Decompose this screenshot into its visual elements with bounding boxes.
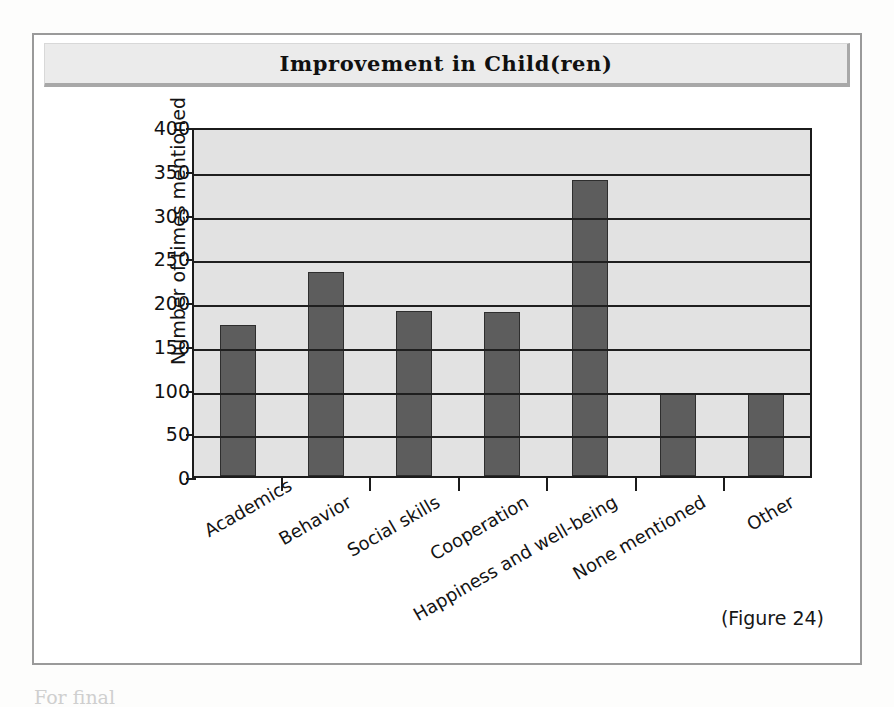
bar xyxy=(308,272,343,476)
y-tick-label: 350 xyxy=(140,161,190,183)
y-tick-label: 300 xyxy=(140,205,190,227)
bar xyxy=(484,312,519,476)
chart-title-banner: Improvement in Child(ren) xyxy=(44,43,850,87)
bar-chart: Number of times mentioned 05010015020025… xyxy=(44,95,850,655)
y-tick-label: 0 xyxy=(140,467,190,489)
x-tick-mark xyxy=(369,478,371,491)
x-tick-mark xyxy=(458,478,460,491)
chart-title: Improvement in Child(ren) xyxy=(280,51,613,76)
scanned-page: Improvement in Child(ren) Number of time… xyxy=(0,0,894,707)
bar-slot xyxy=(634,130,722,476)
y-tick-label: 400 xyxy=(140,117,190,139)
bar xyxy=(748,393,783,476)
y-tick-label: 150 xyxy=(140,336,190,358)
bars-layer xyxy=(194,130,810,476)
y-tick-label: 200 xyxy=(140,292,190,314)
bar xyxy=(660,393,695,476)
bar xyxy=(396,311,431,476)
x-tick-mark xyxy=(546,478,548,491)
bar-slot xyxy=(282,130,370,476)
x-axis-category-label: Academics xyxy=(201,491,267,541)
y-axis-ticks: 050100150200250300350400 xyxy=(132,128,190,478)
figure-caption: (Figure 24) xyxy=(721,607,824,629)
bar-slot xyxy=(722,130,810,476)
x-tick-mark xyxy=(723,478,725,491)
bar xyxy=(220,325,255,476)
y-tick-label: 100 xyxy=(140,380,190,402)
page-body-text: For final xyxy=(34,686,115,707)
bar-slot xyxy=(194,130,282,476)
bar-slot xyxy=(370,130,458,476)
bar xyxy=(572,180,607,476)
plot-area xyxy=(192,128,812,478)
bar-slot xyxy=(458,130,546,476)
y-tick-label: 50 xyxy=(140,423,190,445)
y-tick-label: 250 xyxy=(140,248,190,270)
x-tick-mark xyxy=(635,478,637,491)
bar-slot xyxy=(546,130,634,476)
x-axis-labels: AcademicsBehaviorSocial skillsCooperatio… xyxy=(192,491,812,611)
